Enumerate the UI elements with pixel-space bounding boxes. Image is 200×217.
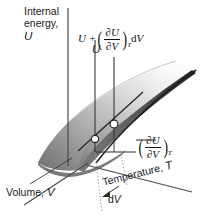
slope-left-paren-icon: (	[138, 137, 143, 158]
v-axis-label-text: Volume,	[6, 186, 44, 198]
top-formula-denominator: ∂V	[104, 40, 119, 53]
energy-surface	[38, 61, 196, 177]
u-axis-label: Internal energy, U	[24, 5, 59, 43]
top-formula-lead: U +	[78, 32, 96, 44]
dv-label: dV	[108, 194, 121, 206]
slope-right-paren-icon: )	[163, 137, 168, 158]
left-paren-icon: (	[98, 29, 103, 50]
thermodynamics-internal-energy-surface-figure: Internal energy, U Volume, V Temperature…	[0, 0, 200, 217]
top-formula-fraction: ∂U∂V	[104, 26, 119, 52]
point-u-plus-du	[110, 120, 118, 128]
v-axis-label: Volume, V	[6, 186, 55, 199]
slope-formula-subscript: T	[168, 149, 172, 157]
dv-label-symbol: V	[114, 193, 121, 205]
slope-formula-denominator: ∂V	[145, 148, 160, 161]
u-axis-label-symbol: U	[24, 30, 59, 44]
top-formula: U +(∂U∂V)TdV	[78, 26, 143, 52]
dv-dotted-left	[95, 152, 102, 213]
point-u	[91, 135, 98, 142]
top-formula-numerator: ∂U	[104, 26, 119, 40]
u-axis-label-line2: energy,	[24, 17, 59, 29]
v-axis-label-symbol: V	[47, 186, 55, 198]
top-formula-trailing-var: V	[137, 32, 144, 44]
slope-formula-fraction: ∂U∂V	[145, 134, 160, 160]
right-paren-icon: )	[122, 29, 127, 50]
slope-formula: (∂U∂V)T	[137, 134, 172, 160]
slope-formula-numerator: ∂U	[145, 134, 160, 148]
u-axis-label-line1: Internal	[24, 5, 59, 17]
